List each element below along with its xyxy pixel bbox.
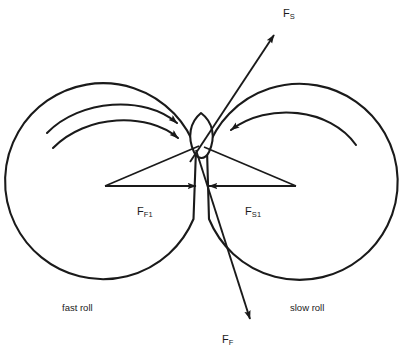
label-force-ff: FF	[222, 334, 234, 345]
fast-roll-rotation-arrows	[47, 104, 178, 148]
fast-roll-circle	[5, 83, 196, 279]
rotation-arrow-fast-outer	[47, 104, 177, 133]
nip-particle	[190, 113, 212, 158]
slow-roll-rotation-arrows	[231, 112, 356, 145]
guide-line-fast	[105, 146, 199, 186]
force-vector-fs	[190, 35, 274, 162]
roll-nip-force-diagram: FS FF FF1 FS1 fast roll slow roll	[0, 0, 400, 354]
label-fast-roll: fast roll	[62, 303, 93, 313]
label-force-fs1: FS1	[245, 206, 261, 217]
rotation-arrow-fast-inner	[53, 120, 178, 148]
resultant-force-line	[190, 35, 274, 319]
diagram-canvas	[0, 0, 400, 354]
guide-line-slow	[204, 147, 296, 186]
label-force-fs: FS	[283, 8, 295, 19]
label-slow-roll: slow roll	[290, 303, 324, 313]
force-vector-ff	[196, 150, 250, 319]
label-force-ff1: FF1	[137, 206, 153, 217]
rotation-arrow-slow	[231, 112, 356, 145]
